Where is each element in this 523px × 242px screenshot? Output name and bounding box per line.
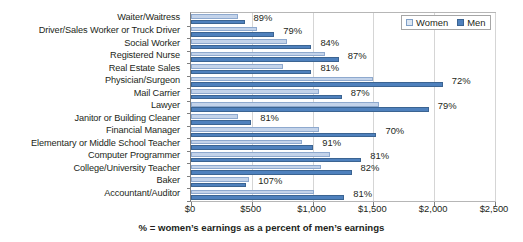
bar-women bbox=[191, 77, 373, 82]
bar-men bbox=[191, 82, 443, 87]
gridline bbox=[495, 13, 496, 201]
bar-women bbox=[191, 39, 287, 44]
bar-women bbox=[191, 14, 238, 19]
table-row: 87% bbox=[191, 51, 495, 64]
category-label: Janitor or Building Cleaner bbox=[74, 114, 184, 124]
table-row: 81% bbox=[191, 151, 495, 164]
table-row: 84% bbox=[191, 38, 495, 51]
table-row: 81% bbox=[191, 63, 495, 76]
category-label: Real Estate Sales bbox=[109, 64, 184, 74]
category-label: Lawyer bbox=[151, 101, 184, 111]
bar-women bbox=[191, 89, 319, 94]
bar-men bbox=[191, 20, 245, 25]
earnings-bar-chart: Waiter/WaitressDriver/Sales Worker or Tr… bbox=[0, 0, 523, 242]
bar-men bbox=[191, 70, 311, 75]
percent-annotation: 79% bbox=[438, 100, 457, 111]
bar-women bbox=[191, 127, 319, 132]
percent-annotation: 81% bbox=[353, 188, 372, 199]
category-label: Mail Carrier bbox=[134, 89, 184, 99]
category-label: Accountant/Auditor bbox=[104, 189, 184, 199]
table-row: 81% bbox=[191, 188, 495, 201]
bar-men bbox=[191, 170, 352, 175]
category-label: Baker bbox=[156, 176, 184, 186]
percent-annotation: 81% bbox=[260, 112, 279, 123]
bar-women bbox=[191, 190, 314, 195]
percent-annotation: 72% bbox=[452, 75, 471, 86]
legend-label-men: Men bbox=[467, 18, 485, 27]
category-axis: Waiter/WaitressDriver/Sales Worker or Tr… bbox=[0, 12, 184, 200]
percent-annotation: 87% bbox=[351, 87, 370, 98]
table-row: 81% bbox=[191, 113, 495, 126]
percent-annotation: 84% bbox=[320, 37, 339, 48]
percent-annotation: 81% bbox=[370, 150, 389, 161]
bar-men bbox=[191, 145, 313, 150]
bar-men bbox=[191, 45, 311, 50]
percent-annotation: 81% bbox=[320, 62, 339, 73]
bar-women bbox=[191, 102, 379, 107]
bar-men bbox=[191, 158, 361, 163]
bar-men bbox=[191, 107, 429, 112]
value-tick-label: $2,000 bbox=[419, 203, 448, 214]
category-label: College/University Teacher bbox=[73, 164, 184, 174]
category-label: Elementary or Middle School Teacher bbox=[31, 139, 184, 149]
axis-title: % = women’s earnings as a percent of men… bbox=[0, 222, 523, 233]
plot-area: 89%79%84%87%81%72%87%79%81%70%91%81%82%1… bbox=[190, 12, 496, 202]
percent-annotation: 91% bbox=[322, 137, 341, 148]
percent-annotation: 70% bbox=[385, 125, 404, 136]
bar-men bbox=[191, 95, 342, 100]
bar-men bbox=[191, 195, 344, 200]
bar-men bbox=[191, 32, 274, 37]
legend-entry-women: Women bbox=[406, 18, 448, 27]
legend-swatch-men-icon bbox=[457, 19, 464, 26]
table-row: 91% bbox=[191, 138, 495, 151]
percent-annotation: 89% bbox=[254, 12, 273, 23]
bar-men bbox=[191, 57, 339, 62]
bar-men bbox=[191, 133, 376, 138]
percent-annotation: 82% bbox=[361, 162, 380, 173]
percent-annotation: 79% bbox=[283, 25, 302, 36]
category-label: Waiter/Waitress bbox=[117, 13, 184, 23]
table-row: 82% bbox=[191, 163, 495, 176]
legend-swatch-women-icon bbox=[406, 19, 413, 26]
bar-women bbox=[191, 114, 238, 119]
value-axis: $0$500$1,000$1,500$2,000$2,500 bbox=[190, 203, 494, 217]
bar-women bbox=[191, 52, 325, 57]
chart-legend: Women Men bbox=[401, 15, 491, 30]
category-label: Physician/Surgeon bbox=[105, 76, 184, 86]
bar-women bbox=[191, 152, 330, 157]
category-label: Driver/Sales Worker or Truck Driver bbox=[39, 26, 184, 36]
percent-annotation: 107% bbox=[258, 175, 282, 186]
value-tick-label: $2,500 bbox=[480, 203, 509, 214]
value-tick-label: $500 bbox=[240, 203, 261, 214]
value-tick-label: $1,000 bbox=[297, 203, 326, 214]
category-label: Social Worker bbox=[124, 39, 184, 49]
bar-women bbox=[191, 140, 302, 145]
bar-women bbox=[191, 64, 283, 69]
value-tick-label: $0 bbox=[185, 203, 195, 214]
category-tick-mark bbox=[187, 201, 191, 202]
value-tick-label: $1,500 bbox=[358, 203, 387, 214]
legend-label-women: Women bbox=[416, 18, 448, 27]
table-row: 72% bbox=[191, 76, 495, 89]
category-label: Computer Programmer bbox=[88, 151, 184, 161]
table-row: 70% bbox=[191, 126, 495, 139]
bar-men bbox=[191, 120, 251, 125]
bar-women bbox=[191, 27, 257, 32]
bar-men bbox=[191, 183, 246, 188]
table-row: 107% bbox=[191, 176, 495, 189]
bar-women bbox=[191, 165, 321, 170]
bar-women bbox=[191, 177, 249, 182]
category-label: Registered Nurse bbox=[110, 51, 184, 61]
percent-annotation: 87% bbox=[348, 50, 367, 61]
bar-rows: 89%79%84%87%81%72%87%79%81%70%91%81%82%1… bbox=[191, 13, 495, 201]
legend-entry-men: Men bbox=[457, 18, 485, 27]
category-label: Financial Manager bbox=[106, 126, 184, 136]
table-row: 79% bbox=[191, 101, 495, 114]
